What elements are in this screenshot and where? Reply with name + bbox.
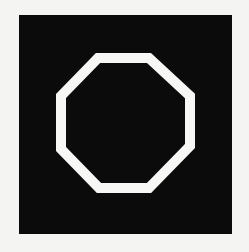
octagon-shape bbox=[61, 58, 190, 188]
octagon-outline-icon bbox=[0, 0, 249, 252]
figure-canvas bbox=[0, 0, 249, 252]
